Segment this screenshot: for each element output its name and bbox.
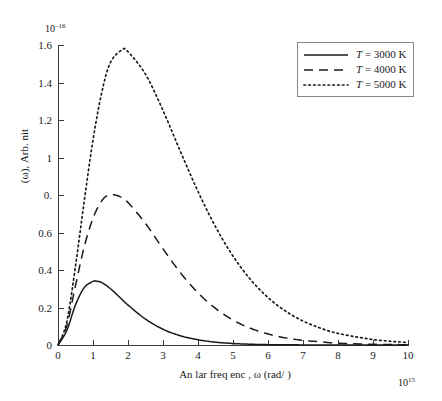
legend-symbol: T bbox=[356, 48, 362, 60]
curve-4000K bbox=[58, 195, 408, 345]
legend-box: T = 3000 KT = 4000 KT = 5000 K bbox=[297, 42, 414, 97]
legend-symbol: T bbox=[356, 78, 362, 90]
legend-label: T = 4000 K bbox=[356, 64, 407, 75]
legend-item[interactable]: T = 4000 K bbox=[303, 62, 407, 77]
legend-symbol: T bbox=[356, 63, 362, 75]
legend-line-sample bbox=[303, 49, 349, 60]
legend-label: T = 3000 K bbox=[356, 49, 407, 60]
legend-line-sample bbox=[303, 79, 349, 90]
curve-3000K bbox=[58, 281, 408, 345]
legend-item[interactable]: T = 3000 K bbox=[303, 47, 407, 62]
legend-label: T = 5000 K bbox=[356, 79, 407, 90]
blackbody-spectrum-figure: 10–16 1015 (ω), Arb. nit An lar freq enc… bbox=[0, 0, 442, 401]
legend-item[interactable]: T = 5000 K bbox=[303, 77, 407, 92]
legend-line-sample bbox=[303, 64, 349, 75]
